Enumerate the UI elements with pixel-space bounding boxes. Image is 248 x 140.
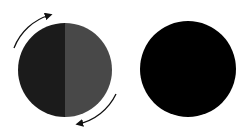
diagram-canvas <box>0 0 248 140</box>
solid-black-circle <box>140 21 236 117</box>
split-circle <box>18 23 112 117</box>
